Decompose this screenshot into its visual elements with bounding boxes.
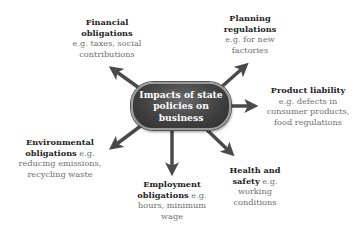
node-financial: Financial obligations e.g. taxes, social… [62, 17, 152, 59]
arrow-to-health [205, 128, 230, 152]
node-heading: Planning regulations [224, 13, 277, 34]
node-detail: e.g. taxes, social contributions [73, 38, 142, 59]
node-detail: e.g. defects in consumer products, food … [267, 96, 350, 127]
node-environmental: Environmental obligations e.g. reducing … [14, 137, 106, 179]
node-product-liability: Product liability e.g. defects in consum… [258, 85, 358, 127]
node-detail: e.g. for new factories [225, 34, 275, 55]
central-node: Impacts of state policies on business [131, 82, 231, 130]
node-employment: Employment obligations e.g. hours, minim… [132, 179, 212, 221]
central-node-title: Impacts of state policies on business [133, 89, 229, 124]
node-health-safety: Health and safety e.g. working condition… [225, 165, 285, 207]
arrow-to-environmental [114, 125, 142, 146]
node-planning: Planning regulations e.g. for new factor… [210, 13, 290, 55]
node-heading: Product liability [271, 85, 345, 95]
node-heading: Financial obligations [81, 17, 132, 38]
